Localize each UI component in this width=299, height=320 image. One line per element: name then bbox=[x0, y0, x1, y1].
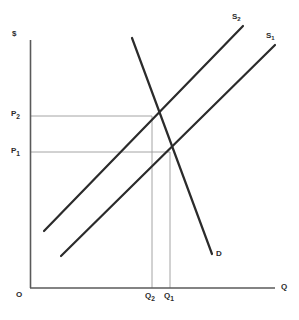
y-tick-p1-sub: 1 bbox=[16, 150, 20, 157]
curve-s2-sub: 2 bbox=[237, 16, 240, 22]
x-tick-label-q1: Q1 bbox=[164, 292, 174, 302]
x-tick-q1-sub: 1 bbox=[170, 295, 174, 302]
y-tick-p2-sub: 2 bbox=[16, 113, 20, 120]
supply-demand-chart: $ Q O P2 P1 Q2 Q1 S2 S1 D bbox=[0, 0, 299, 320]
chart-canvas bbox=[0, 0, 299, 320]
x-tick-label-q2: Q2 bbox=[145, 292, 155, 302]
curve-label-d: D bbox=[216, 250, 222, 258]
supply-curve-s1 bbox=[61, 45, 275, 256]
x-axis-title: Q bbox=[281, 283, 287, 291]
curve-label-s2: S2 bbox=[232, 13, 241, 21]
curve-s1-sub: 1 bbox=[271, 35, 274, 41]
x-tick-q2-sub: 2 bbox=[151, 295, 155, 302]
supply-curve-s2 bbox=[44, 26, 243, 231]
y-tick-label-p2: P2 bbox=[11, 110, 20, 120]
curve-label-s1: S1 bbox=[266, 32, 275, 40]
y-axis-title: $ bbox=[12, 30, 17, 38]
origin-label: O bbox=[16, 291, 22, 299]
y-tick-label-p1: P1 bbox=[11, 147, 20, 157]
